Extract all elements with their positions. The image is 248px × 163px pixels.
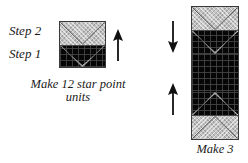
chevron-seam-lines-icon bbox=[60, 45, 105, 68]
v-seam-lines-icon bbox=[192, 116, 238, 139]
v-seam-lines-icon bbox=[192, 7, 238, 30]
quilt-instruction-diagram: Step 2 Step 1 Make 12 star p bbox=[0, 0, 248, 163]
make-3-caption: Make 3 bbox=[184, 143, 246, 156]
press-direction-arrow-up-icon bbox=[111, 26, 125, 62]
v-seam-lines-icon bbox=[60, 22, 105, 45]
horizontal-seam-line bbox=[192, 115, 238, 116]
bottom-unit-light-half bbox=[192, 116, 238, 139]
star-point-unit-top-half bbox=[60, 22, 105, 45]
chevron-seam-lines-icon bbox=[192, 30, 238, 54]
star-point-unit-bottom-flipped bbox=[192, 92, 238, 139]
top-unit-light-half bbox=[192, 7, 238, 30]
stacked-star-point-rectangle bbox=[191, 6, 239, 140]
bottom-unit-dark-half bbox=[192, 92, 238, 116]
star-point-unit bbox=[59, 21, 106, 68]
top-unit-dark-half bbox=[192, 30, 238, 54]
chevron-seam-lines-icon bbox=[192, 92, 238, 116]
step-1-label: Step 1 bbox=[9, 47, 41, 61]
star-point-unit-top bbox=[192, 7, 238, 54]
star-point-unit-bottom-half bbox=[60, 45, 105, 68]
horizontal-seam-line bbox=[60, 45, 105, 46]
press-direction-arrow-down-icon bbox=[166, 20, 180, 56]
make-12-caption: Make 12 star point units bbox=[26, 78, 130, 104]
step-2-label: Step 2 bbox=[9, 24, 41, 38]
press-direction-arrow-up-icon-2 bbox=[166, 80, 180, 116]
horizontal-seam-line bbox=[192, 30, 238, 31]
